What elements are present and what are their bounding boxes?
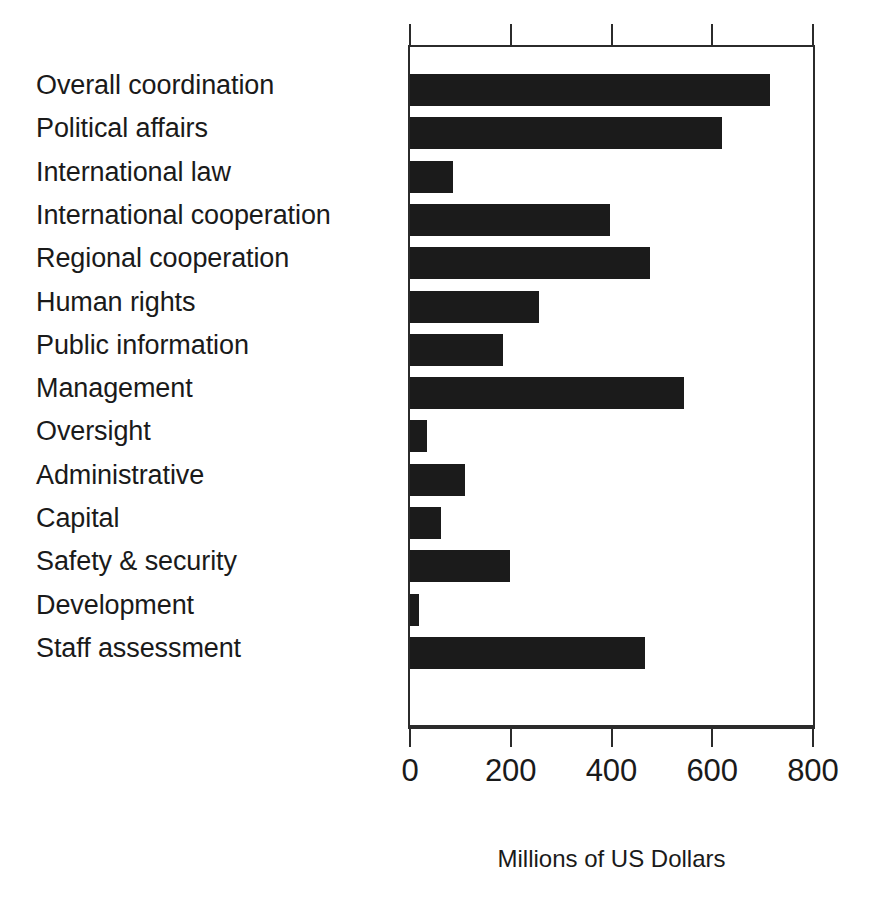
- x-tick-label: 800: [787, 750, 839, 792]
- bottom-tick-mark: [510, 729, 512, 747]
- bottom-tick-mark: [409, 729, 411, 747]
- bottom-tick-mark: [611, 729, 613, 747]
- x-tick-label: 400: [586, 750, 638, 792]
- bar: [410, 334, 503, 366]
- category-label: International law: [36, 151, 231, 194]
- bar-chart-figure: Overall coordinationPolitical affairsInt…: [0, 0, 876, 912]
- category-label: Political affairs: [36, 107, 208, 150]
- bar: [410, 291, 539, 323]
- category-label: Regional cooperation: [36, 237, 289, 280]
- bar: [410, 161, 453, 193]
- bar: [410, 117, 722, 149]
- category-label: Human rights: [36, 281, 195, 324]
- bar: [410, 637, 645, 669]
- bar: [410, 464, 465, 496]
- bar: [410, 594, 419, 626]
- bar: [410, 74, 770, 106]
- bar: [410, 507, 441, 539]
- category-label-column: Overall coordinationPolitical affairsInt…: [0, 45, 400, 727]
- category-label: Public information: [36, 324, 249, 367]
- bottom-tick-mark: [812, 729, 814, 747]
- x-tick-label: 600: [686, 750, 738, 792]
- bar: [410, 204, 610, 236]
- top-tick-mark: [409, 24, 411, 45]
- plot-area: [408, 45, 815, 727]
- category-label: Management: [36, 367, 193, 410]
- category-label: Overall coordination: [36, 64, 274, 107]
- bar-series: [410, 47, 813, 725]
- top-tick-mark: [812, 24, 814, 45]
- x-tick-label: 0: [401, 750, 418, 792]
- category-label: International cooperation: [36, 194, 331, 237]
- top-tick-mark: [711, 24, 713, 45]
- bar: [410, 377, 684, 409]
- x-tick-label: 200: [485, 750, 537, 792]
- bar: [410, 550, 510, 582]
- category-label: Safety & security: [36, 540, 237, 583]
- top-axis-ticks: [408, 24, 815, 45]
- x-axis-tick-labels: 0200400600800: [408, 750, 815, 792]
- top-tick-mark: [611, 24, 613, 45]
- x-axis-title: Millions of US Dollars: [408, 845, 815, 873]
- category-label: Capital: [36, 497, 119, 540]
- top-tick-mark: [510, 24, 512, 45]
- category-label: Development: [36, 584, 194, 627]
- bar: [410, 247, 650, 279]
- category-label: Oversight: [36, 410, 151, 453]
- bar: [410, 420, 427, 452]
- category-label: Administrative: [36, 454, 204, 497]
- bottom-tick-mark: [711, 729, 713, 747]
- category-label: Staff assessment: [36, 627, 241, 670]
- x-axis-ticks: [408, 729, 815, 747]
